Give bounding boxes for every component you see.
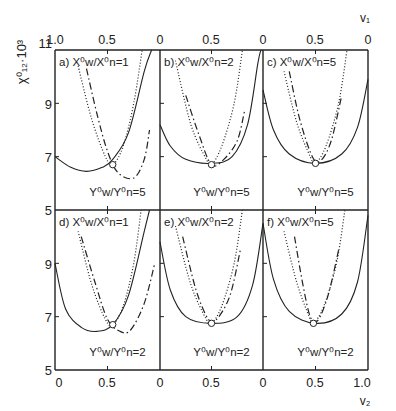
ytick-label: 7 (45, 310, 52, 325)
curve-dash-dot (186, 95, 245, 166)
critical-point-marker (208, 320, 214, 326)
top-xtick-label: 0 (365, 33, 372, 47)
top-xtick-label: 0.5 (306, 33, 323, 47)
panel-label: c) X⁰w/X⁰n=5 (267, 56, 336, 68)
bottom-axis-label: v₂ (360, 394, 371, 408)
curve-dash-dot (295, 237, 339, 323)
panel-note: Y⁰w/Y⁰n=5 (297, 186, 353, 198)
ytick-label: 9 (45, 97, 52, 112)
top-xtick-label: 0.5 (202, 33, 219, 47)
critical-point-marker (110, 161, 116, 167)
curve-dash-dot (183, 237, 241, 323)
bottom-xtick-label: 0 (157, 376, 164, 390)
figure: a) X⁰w/X⁰n=1Y⁰w/Y⁰n=5b) X⁰w/X⁰n=2Y⁰w/Y⁰n… (0, 0, 396, 411)
bottom-xtick-label: 0.5 (306, 376, 323, 390)
ytick-label: 7 (45, 150, 52, 165)
critical-point-marker (208, 161, 214, 167)
ytick-label: 9 (45, 257, 52, 272)
curve-solid (263, 79, 368, 163)
curve-solid (263, 215, 368, 323)
curve-solid (55, 210, 150, 331)
panel-note: Y⁰w/Y⁰n=2 (297, 346, 353, 358)
panel-label: e) X⁰w/X⁰n=2 (164, 216, 234, 228)
panel-label: f) X⁰w/X⁰n=5 (267, 216, 334, 228)
top-axis-label: v₁ (360, 11, 370, 25)
bottom-xtick-label: 0.5 (98, 376, 115, 390)
top-xtick-label: 0 (157, 33, 164, 47)
critical-point-marker (310, 320, 316, 326)
panel-note: Y⁰w/Y⁰n=2 (89, 346, 145, 358)
bottom-xtick-label: 0 (56, 376, 63, 390)
y-axis-label: χ⁰₁₂·10³ (14, 39, 29, 84)
bottom-xtick-label: 0.5 (202, 376, 219, 390)
panel-label: a) X⁰w/X⁰n=1 (59, 56, 129, 68)
top-xtick-label: 0 (260, 33, 267, 47)
bottom-xtick-label: 1.0 (353, 376, 370, 390)
curve-dash-dot (87, 69, 150, 179)
top-xtick-label: 0.5 (98, 33, 115, 47)
curve-solid (160, 223, 263, 323)
critical-point-marker (312, 160, 318, 166)
ytick-label: 5 (45, 363, 52, 378)
curve-dash-dot (289, 71, 342, 162)
bottom-xtick-label: 0 (260, 376, 267, 390)
panel-note: Y⁰w/Y⁰n=2 (193, 346, 249, 358)
panel-note: Y⁰w/Y⁰n=5 (89, 186, 145, 198)
critical-point-marker (110, 321, 116, 327)
panel-label: d) X⁰w/X⁰n=1 (59, 216, 129, 228)
panel-note: Y⁰w/Y⁰n=5 (193, 186, 249, 198)
panel-label: b) X⁰w/X⁰n=2 (164, 56, 234, 68)
ytick-label: 5 (45, 203, 52, 218)
top-xtick-label: 1.0 (46, 33, 63, 47)
